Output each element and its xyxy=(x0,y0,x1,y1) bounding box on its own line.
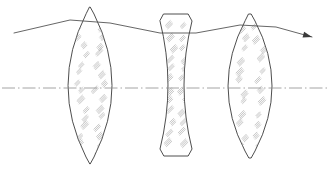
hatch-stroke xyxy=(100,144,106,150)
hatch-stroke xyxy=(185,99,189,103)
lens-3 xyxy=(228,14,272,158)
hatch-stroke xyxy=(75,152,79,156)
hatch-stroke xyxy=(75,15,80,20)
hatch-stroke xyxy=(101,14,105,18)
ray-arrowhead-icon xyxy=(303,32,312,38)
optics-diagram xyxy=(0,0,329,171)
hatch-stroke xyxy=(258,145,262,149)
hatch-stroke xyxy=(102,15,106,19)
diagram-canvas xyxy=(0,0,329,171)
lens-2 xyxy=(160,14,192,156)
hatch-stroke xyxy=(74,14,79,19)
hatch-stroke xyxy=(76,153,80,157)
hatch-stroke xyxy=(103,17,107,21)
hatch-stroke xyxy=(75,150,79,154)
hatch-stroke xyxy=(97,151,101,155)
hatch-stroke xyxy=(75,24,79,28)
